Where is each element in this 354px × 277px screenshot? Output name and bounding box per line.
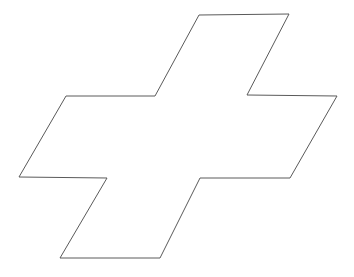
drawing-canvas xyxy=(0,0,354,277)
sheared-cross-polygon xyxy=(19,14,337,258)
shape-figure xyxy=(0,0,354,277)
